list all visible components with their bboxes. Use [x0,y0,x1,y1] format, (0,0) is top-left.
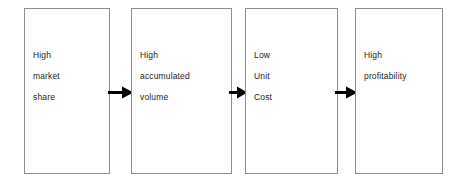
flow-box-text: Low Unit Cost [254,45,335,108]
flow-box-line: share [33,87,107,108]
flow-box-low-unit-cost: Low Unit Cost [245,8,338,174]
flow-box-line: High [364,45,440,66]
flow-box-high-market-share: High market share [24,8,110,174]
flow-box-line: Low [254,45,335,66]
flow-box-text: High market share [33,45,107,108]
flow-box-line: Cost [254,87,335,108]
flow-box-line: accumulated [140,66,229,87]
flow-box-high-accumulated-volume: High accumulated volume [131,8,232,174]
flow-box-line: Unit [254,66,335,87]
process-flow-diagram: High market share High accumulated volum… [0,0,468,185]
flow-box-text: High accumulated volume [140,45,229,108]
flow-box-line: volume [140,87,229,108]
flow-box-text: High profitability [364,45,440,87]
flow-box-line: High [140,45,229,66]
flow-box-line: profitability [364,66,440,87]
flow-box-line: market [33,66,107,87]
flow-box-line: High [33,45,107,66]
flow-box-high-profitability: High profitability [355,8,443,174]
